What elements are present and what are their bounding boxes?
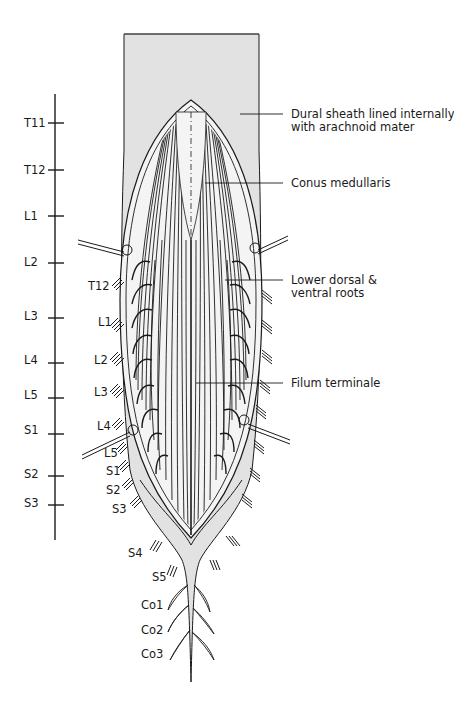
vertebral-label-l1: L1 <box>24 210 38 223</box>
root-label-s3: S3 <box>112 503 127 516</box>
root-label-co1: Co1 <box>141 599 163 612</box>
root-label-l5: L5 <box>104 447 118 460</box>
callout-roots-line2: ventral roots <box>291 287 377 300</box>
callout-lower-roots: Lower dorsal & ventral roots <box>291 274 377 300</box>
vertebral-label-s3: S3 <box>24 497 39 510</box>
vertebral-label-t11: T11 <box>24 117 46 130</box>
root-label-co2: Co2 <box>141 624 163 637</box>
callout-filum-terminale: Filum terminale <box>291 377 380 390</box>
vertebral-label-l2: L2 <box>24 256 38 269</box>
root-label-t12: T12 <box>88 280 110 293</box>
root-label-l3: L3 <box>94 386 108 399</box>
vertebral-label-s2: S2 <box>24 468 39 481</box>
vertebral-label-l4: L4 <box>24 354 38 367</box>
root-label-s5: S5 <box>152 571 167 584</box>
callout-filum-line1: Filum terminale <box>291 377 380 390</box>
vertebral-label-s1: S1 <box>24 424 39 437</box>
root-label-s1: S1 <box>106 465 121 478</box>
vertebral-label-l3: L3 <box>24 310 38 323</box>
root-label-co3: Co3 <box>141 648 163 661</box>
root-label-l4: L4 <box>97 420 111 433</box>
root-label-s4: S4 <box>128 547 143 560</box>
root-label-l2: L2 <box>94 354 108 367</box>
root-label-l1: L1 <box>98 316 112 329</box>
root-label-s2: S2 <box>106 484 121 497</box>
vertebral-label-l5: L5 <box>24 389 38 402</box>
vertebral-scale <box>48 94 64 540</box>
callout-dural-sheath: Dural sheath lined internally with arach… <box>291 108 454 134</box>
callout-conus-line1: Conus medullaris <box>291 177 391 190</box>
callout-dural-line2: with arachnoid mater <box>291 121 454 134</box>
vertebral-label-t12: T12 <box>24 164 46 177</box>
callout-conus-medullaris: Conus medullaris <box>291 177 391 190</box>
